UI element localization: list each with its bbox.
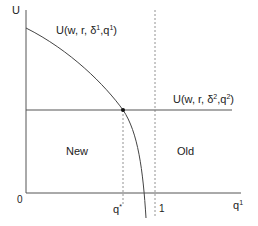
curve1-label: U(w, r, δ1,q1) <box>56 25 117 36</box>
curve2-label-base: U(w, r, δ <box>173 93 213 105</box>
origin-label: 0 <box>17 195 23 205</box>
qstar-tick-label: q* <box>113 204 122 215</box>
intersection-point <box>121 108 125 112</box>
x-axis-label: q1 <box>233 200 243 211</box>
curve2-label-end: ) <box>230 93 234 105</box>
curve1-label-base: U(w, r, δ <box>56 24 96 36</box>
y-axis-label: U <box>12 5 20 16</box>
region-new-label: New <box>66 146 88 157</box>
qstar-sup: * <box>119 203 122 210</box>
diagram-canvas <box>0 0 258 226</box>
x-axis-label-sup: 1 <box>239 199 243 206</box>
curve2-label: U(w, r, δ2,q2) <box>173 94 234 105</box>
utility-curve-1 <box>26 28 146 218</box>
region-old-label: Old <box>177 146 194 157</box>
one-tick-label: 1 <box>159 204 165 214</box>
curve1-label-end: ) <box>113 24 117 36</box>
